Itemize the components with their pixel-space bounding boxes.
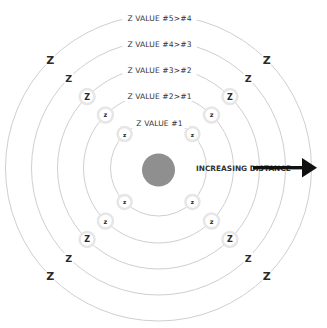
ring-label-4: Z VALUE #4>#3 bbox=[127, 40, 191, 49]
arrow-head-icon bbox=[302, 158, 317, 178]
z-marker: Z bbox=[222, 232, 237, 247]
z-marker: z bbox=[204, 107, 219, 122]
z-marker: z bbox=[185, 195, 199, 209]
ring-label-3: Z VALUE #3>#2 bbox=[127, 66, 191, 75]
z-glyph: Z bbox=[263, 270, 271, 283]
z-glyph: z bbox=[123, 132, 126, 138]
z-glyph: Z bbox=[84, 93, 90, 102]
ring-label-1: Z VALUE #1 bbox=[136, 119, 182, 128]
z-glyph: z bbox=[191, 132, 194, 138]
increasing-distance-arrow: INCREASING DISTANCE bbox=[196, 158, 317, 178]
central-body bbox=[142, 154, 175, 187]
z-marker: Z bbox=[44, 53, 57, 67]
z-glyph: z bbox=[104, 111, 108, 119]
z-marker: Z bbox=[62, 251, 75, 264]
z-glyph: Z bbox=[46, 54, 54, 67]
z-marker: z bbox=[185, 127, 199, 141]
z-marker: Z bbox=[260, 270, 273, 284]
z-glyph: z bbox=[210, 218, 214, 226]
z-glyph: Z bbox=[245, 253, 252, 264]
distance-rings-diagram: zzzzzzzzZZZZZZZZZZZZ Z VALUE #1Z VALUE #… bbox=[0, 0, 327, 328]
z-marker: Z bbox=[222, 89, 237, 104]
z-glyph: Z bbox=[84, 235, 90, 244]
z-glyph: z bbox=[123, 199, 126, 205]
z-glyph: z bbox=[104, 218, 108, 226]
z-marker: Z bbox=[62, 72, 75, 85]
z-glyph: Z bbox=[263, 54, 271, 67]
z-marker: Z bbox=[242, 72, 255, 85]
z-glyph: Z bbox=[65, 73, 72, 84]
ring-label-2: Z VALUE #2>#1 bbox=[127, 92, 191, 101]
z-marker: z bbox=[204, 214, 219, 229]
z-glyph: z bbox=[210, 111, 214, 119]
z-glyph: z bbox=[191, 199, 194, 205]
z-marker: z bbox=[118, 127, 132, 141]
z-marker: z bbox=[98, 214, 113, 229]
z-glyph: Z bbox=[46, 270, 54, 283]
z-marker: z bbox=[118, 195, 132, 209]
z-marker: Z bbox=[80, 89, 95, 104]
z-glyph: Z bbox=[227, 93, 233, 102]
z-glyph: Z bbox=[227, 235, 233, 244]
z-glyph: Z bbox=[245, 73, 252, 84]
z-glyph: Z bbox=[65, 253, 72, 264]
z-marker: Z bbox=[242, 251, 255, 264]
z-marker: Z bbox=[80, 232, 95, 247]
arrow-shaft bbox=[253, 166, 305, 169]
z-marker: z bbox=[98, 107, 113, 122]
ring-labels: Z VALUE #1Z VALUE #2>#1Z VALUE #3>#2Z VA… bbox=[122, 12, 196, 128]
ring-label-5: Z VALUE #5>#4 bbox=[127, 14, 191, 23]
